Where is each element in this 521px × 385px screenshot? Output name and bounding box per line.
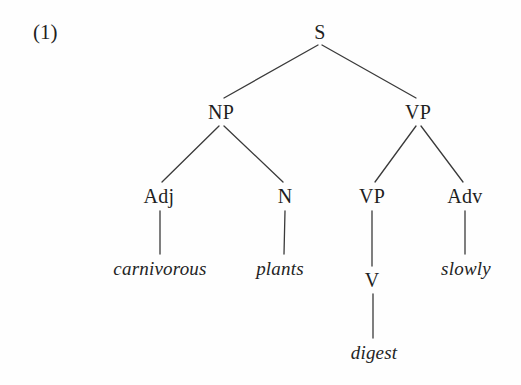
tree-edge-s-to-vp — [322, 45, 416, 98]
tree-terminal-w-plants: plants — [256, 259, 304, 278]
syntax-tree-figure: (1) SNPVPAdjNVPAdvV carnivorousplantsslo… — [0, 0, 521, 385]
tree-terminal-w-carnivorous: carnivorous — [113, 259, 206, 278]
tree-node-np: NP — [208, 102, 234, 122]
tree-terminal-w-slowly: slowly — [441, 259, 491, 278]
tree-node-vp: VP — [405, 102, 431, 122]
tree-node-vp2: VP — [359, 186, 385, 206]
tree-edge-np-to-n — [224, 126, 283, 182]
tree-edge-n-to-w-plants — [284, 211, 285, 254]
tree-edge-s-to-np — [224, 45, 318, 98]
tree-node-v: V — [365, 270, 380, 290]
tree-node-s: S — [314, 22, 325, 42]
tree-node-adj: Adj — [144, 186, 175, 206]
tree-edge-np-to-adj — [162, 126, 219, 182]
tree-terminal-w-digest: digest — [351, 343, 398, 362]
tree-edge-vp-to-vp2 — [375, 126, 416, 182]
tree-edge-vp-to-adv — [421, 126, 463, 182]
tree-node-adv: Adv — [447, 186, 482, 206]
tree-node-n: N — [278, 186, 293, 206]
tree-branch-lines — [0, 0, 521, 385]
